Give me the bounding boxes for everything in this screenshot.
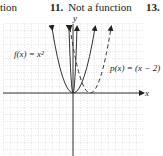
p-label: p(x) = (x − 2) [110, 63, 160, 73]
graph [0, 0, 163, 156]
x-axis-label: x [145, 88, 149, 98]
f-label: f(x) = x² [14, 49, 44, 59]
y-axis-label: y [73, 13, 77, 23]
